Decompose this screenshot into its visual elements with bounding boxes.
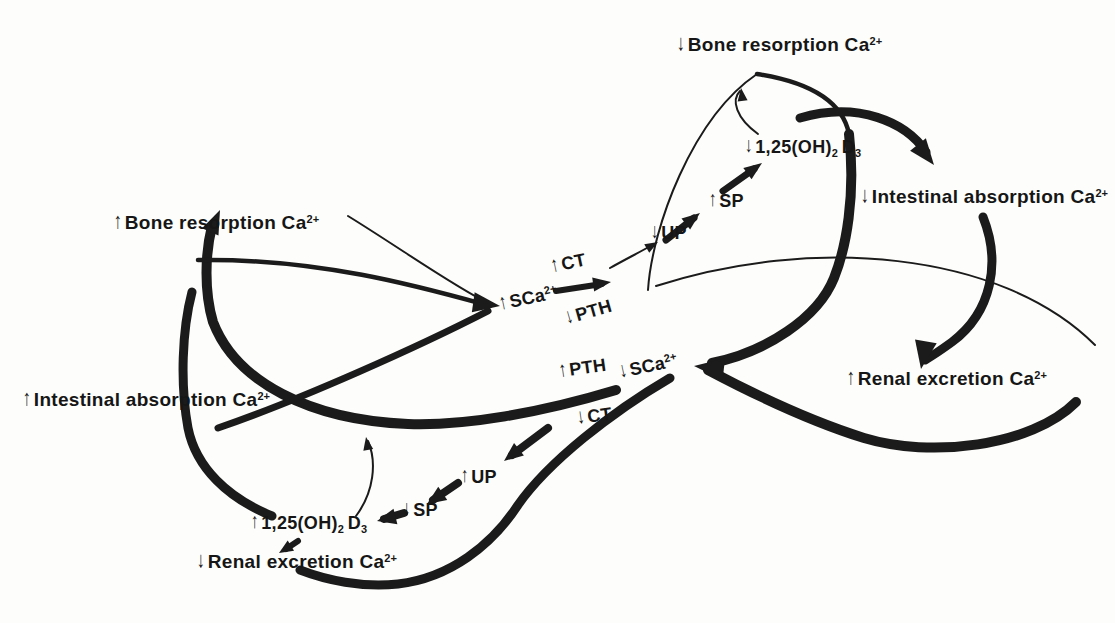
label-bone-resorption-decreased: ↓Bone resorption Ca2+ [676,35,882,54]
curve-thin-to-upper-hub [348,216,490,304]
curve-d3-to-low-hub [712,134,851,363]
label-urinary-phosphate-decreased: ↓UP [650,224,687,242]
up-arrow-icon: ↑ [461,465,469,486]
down-arrow-icon: ↓ [677,32,685,54]
feedback-curves [0,0,1115,623]
down-arrow-icon: ↓ [197,549,205,571]
down-arrow-icon: ↓ [403,498,411,519]
up-arrow-icon: ↑ [251,511,259,532]
up-arrow-icon: ↑ [23,387,31,409]
label-vitd3-decreased: ↓1,25(OH)2 D3 [744,138,861,159]
label-serum-phosphate-decreased: ↓SP [402,501,438,519]
down-arrow-icon: ↓ [745,135,753,156]
down-arrow-icon: ↓ [861,184,869,206]
label-renal-excretion-decreased: ↓Renal excretion Ca2+ [196,552,397,571]
up-arrow-icon: ↑ [847,366,855,388]
curve-left-int-to-upper-hub [218,311,488,428]
label-urinary-phosphate-increased: ↑UP [460,468,497,486]
up-arrow-icon: ↑ [114,210,122,232]
label-intestinal-absorption-increased: ↑Intestinal absorption Ca2+ [22,390,270,409]
up-arrow-icon: ↑ [709,189,717,210]
label-renal-excretion-increased: ↑Renal excretion Ca2+ [846,369,1047,388]
curve-left-bone-to-upper-hub [198,260,490,306]
curve-d3-feedback-bottom [356,441,373,516]
label-bone-resorption-increased: ↑Bone resorption Ca2+ [113,213,319,232]
down-arrow-icon: ↓ [651,221,659,242]
label-intestinal-absorption-decreased: ↓Intestinal absorption Ca2+ [860,187,1108,206]
label-calcitonin-decreased: ↓CT [575,405,613,428]
down-arrow-icon: ↓ [575,405,586,427]
label-serum-phosphate-increased: ↑SP [708,192,744,210]
label-vitd3-increased: ↑1,25(OH)2 D3 [250,514,367,535]
curve-right-int-to-renal [925,217,992,360]
calcium-feedback-diagram: ↓Bone resorption Ca2+ ↓1,25(OH)2 D3 ↑SP … [0,0,1115,623]
up-arrow-icon: ↑ [557,358,568,380]
curve-loop-top-right [757,74,849,134]
curve-fan-long-right [656,258,1095,345]
